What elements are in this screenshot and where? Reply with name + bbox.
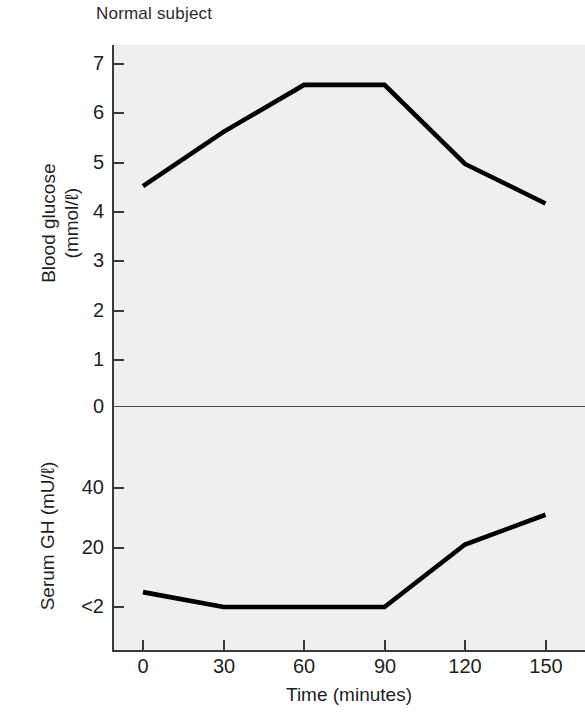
y-tick-gh-20 [114, 547, 124, 549]
y-tick-glucose-1 [114, 359, 124, 361]
y-tick-glucose-7 [114, 63, 124, 65]
page-title: Normal subject [96, 4, 212, 24]
plot-area-serum-gh [113, 407, 585, 651]
y-tick-glucose-6 [114, 112, 124, 114]
y-tick-gh-40 [114, 487, 124, 489]
y-axis-title-blood-glucose: Blood glucose (mmol/ℓ) [37, 73, 83, 373]
x-tick-90 [384, 640, 386, 651]
y-ticklabel-glucose-0: 0 [0, 395, 104, 418]
y-tick-glucose-2 [114, 310, 124, 312]
y-tick-glucose-3 [114, 260, 124, 262]
x-tick-0 [142, 640, 144, 651]
x-ticklabel-120: 120 [430, 655, 500, 678]
plot-area-blood-glucose [113, 45, 585, 406]
x-tick-150 [545, 640, 547, 651]
y-axis-title-serum-gh: Serum GH (mU/ℓ) [37, 426, 59, 646]
x-tick-120 [464, 640, 466, 651]
chart-figure: Normal subject 7 6 5 4 3 2 1 0 40 20 <2 … [0, 0, 585, 716]
x-tick-60 [303, 640, 305, 651]
x-ticklabel-90: 90 [350, 655, 420, 678]
x-ticklabel-30: 30 [189, 655, 259, 678]
x-ticklabel-0: 0 [108, 655, 178, 678]
y-tick-glucose-4 [114, 211, 124, 213]
panel-divider-zero-line [113, 406, 585, 407]
x-ticklabel-60: 60 [269, 655, 339, 678]
x-axis-title: Time (minutes) [113, 684, 585, 706]
y-ticklabel-glucose-7: 7 [0, 52, 104, 75]
y-axis-line [112, 45, 114, 652]
y-axis-title-line2: (mmol/ℓ) [60, 73, 83, 373]
x-ticklabel-150: 150 [511, 655, 581, 678]
y-tick-gh-lt2 [114, 606, 124, 608]
y-tick-glucose-5 [114, 162, 124, 164]
x-tick-30 [223, 640, 225, 651]
y-axis-title-line1: Blood glucose [37, 73, 60, 373]
x-axis-line [112, 650, 585, 652]
